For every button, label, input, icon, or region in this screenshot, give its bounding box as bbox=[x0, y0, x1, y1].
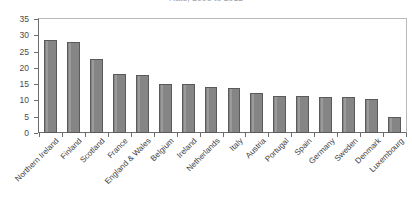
bar bbox=[205, 87, 218, 133]
bar bbox=[296, 96, 309, 133]
bar bbox=[365, 99, 378, 133]
bar bbox=[182, 84, 195, 133]
bar bbox=[388, 117, 401, 133]
bar bbox=[319, 97, 332, 133]
bar bbox=[342, 97, 355, 133]
bar-chart: Rate, 2008 to 2012 05101520253035 Northe… bbox=[0, 0, 412, 201]
y-tick-label: 35 bbox=[20, 15, 29, 24]
y-tick-label: 10 bbox=[20, 96, 29, 105]
x-category-label: France bbox=[0, 137, 130, 201]
y-tick-label: 20 bbox=[20, 64, 29, 73]
y-tick-label: 30 bbox=[20, 31, 29, 40]
bar bbox=[159, 84, 172, 134]
bar bbox=[273, 96, 286, 133]
bar bbox=[136, 75, 149, 133]
bar bbox=[113, 74, 126, 133]
y-tick-label: 5 bbox=[24, 112, 29, 121]
y-axis: 05101520253035 bbox=[0, 18, 34, 133]
bar bbox=[228, 88, 241, 133]
bar bbox=[90, 59, 103, 133]
y-tick-mark bbox=[34, 133, 38, 134]
y-tick-label: 0 bbox=[24, 129, 29, 138]
chart-title: Rate, 2008 to 2012 bbox=[0, 0, 412, 3]
x-axis: Northern IrelandFinlandScotlandFranceEng… bbox=[0, 137, 412, 201]
y-tick-label: 25 bbox=[20, 47, 29, 56]
bars-layer bbox=[39, 19, 406, 133]
bar bbox=[67, 42, 80, 133]
bar bbox=[250, 93, 263, 133]
bar bbox=[44, 40, 57, 133]
y-tick-label: 15 bbox=[20, 80, 29, 89]
